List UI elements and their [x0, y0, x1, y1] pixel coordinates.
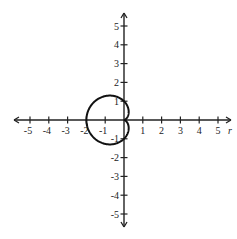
- y-tick-label: 2: [114, 77, 119, 88]
- x-tick-label: -4: [43, 125, 51, 136]
- y-tick-label: -3: [111, 171, 119, 182]
- x-tick-label: 2: [159, 125, 164, 136]
- polar-graph: -5-4-3-2-112345-5-4-3-2-112345 r: [0, 0, 237, 239]
- y-tick-label: 4: [114, 39, 119, 50]
- x-tick-label: 3: [178, 125, 183, 136]
- y-tick-label: -5: [111, 209, 119, 220]
- x-tick-label: 4: [197, 125, 202, 136]
- x-axis-label: r: [228, 125, 232, 136]
- x-tick-label: -3: [61, 125, 69, 136]
- x-tick-label: 5: [216, 125, 221, 136]
- x-tick-label: -5: [24, 125, 32, 136]
- y-tick-label: 3: [114, 58, 119, 69]
- y-tick-label: -2: [111, 152, 119, 163]
- x-tick-label: -1: [99, 125, 107, 136]
- y-tick-label: 5: [114, 21, 119, 32]
- y-tick-label: -4: [111, 190, 119, 201]
- x-tick-label: 1: [140, 125, 145, 136]
